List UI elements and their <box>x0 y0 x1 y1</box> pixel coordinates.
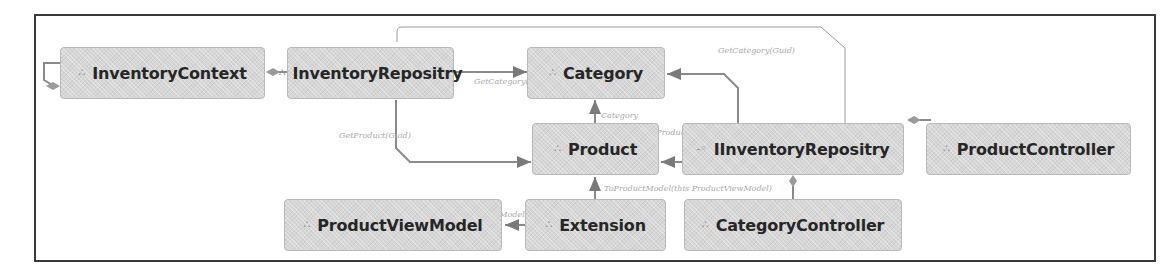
edge-label: GetCategory(Guid) <box>718 46 795 55</box>
class-icon: ∴ <box>943 142 950 155</box>
class-icon: ∴ <box>545 218 552 231</box>
node-category-controller[interactable]: ∴ CategoryController <box>684 199 902 251</box>
node-label: InventoryRepositry <box>293 64 463 83</box>
edge-repositry-product <box>396 100 531 162</box>
class-icon: ∴ <box>78 66 85 79</box>
node-product[interactable]: ∴ Product <box>532 123 659 175</box>
node-label: CategoryController <box>716 216 885 235</box>
class-icon: ∴ <box>549 66 556 79</box>
edge-context-self <box>44 63 60 86</box>
edge-label: GetProduct(Guid) <box>339 131 411 140</box>
class-icon: ∴ <box>702 218 709 231</box>
node-extension[interactable]: ∴ Extension <box>525 199 666 251</box>
node-label: InventoryContext <box>92 64 246 83</box>
node-inventory-context[interactable]: ∴ InventoryContext <box>60 47 265 99</box>
node-label: Category <box>563 64 643 83</box>
class-icon: ∴ <box>554 142 561 155</box>
node-product-controller[interactable]: ∴ ProductController <box>926 123 1131 175</box>
node-label: ProductViewModel <box>317 216 482 235</box>
node-iinventory-repositry[interactable]: -◦ IInventoryRepositry <box>682 123 904 175</box>
node-label: IInventoryRepositry <box>714 140 890 159</box>
node-category[interactable]: ∴ Category <box>527 47 665 99</box>
node-label: ProductController <box>957 140 1115 159</box>
node-inventory-repositry[interactable]: ∴ InventoryRepositry <box>287 47 454 99</box>
node-product-view-model[interactable]: ∴ ProductViewModel <box>284 199 502 251</box>
diamond-icon <box>907 116 921 124</box>
node-label: Extension <box>559 216 646 235</box>
edge-label: ToProductModel(this ProductViewModel) <box>604 184 772 193</box>
class-icon: ∴ <box>303 218 310 231</box>
node-label: Product <box>568 140 637 159</box>
interface-icon: -◦ <box>696 142 706 155</box>
edge-label: Category <box>601 111 638 120</box>
class-icon: ∴ <box>279 66 286 79</box>
diamond-icon <box>789 175 797 187</box>
